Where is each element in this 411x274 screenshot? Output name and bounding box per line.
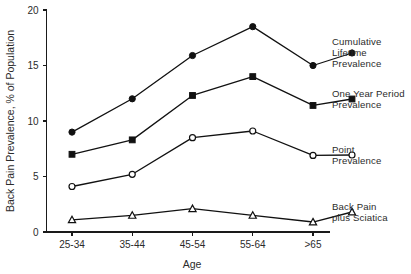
data-point-marker bbox=[310, 62, 316, 68]
x-tick-label: 25-34 bbox=[59, 239, 85, 250]
data-point-marker bbox=[250, 24, 256, 30]
y-tick-label: 10 bbox=[27, 116, 39, 127]
data-point-marker bbox=[310, 152, 316, 158]
series-4 bbox=[68, 205, 355, 225]
data-point-marker bbox=[129, 137, 135, 143]
y-tick-label: 15 bbox=[27, 60, 39, 71]
x-axis-title: Age bbox=[183, 258, 202, 270]
legend-label: Back Pain plus Sciatica bbox=[332, 201, 388, 223]
y-axis-ticks: 05101520 bbox=[27, 5, 46, 238]
data-point-marker bbox=[69, 151, 75, 157]
series-2 bbox=[69, 74, 355, 158]
x-tick-label: 55-64 bbox=[240, 239, 266, 250]
y-tick-label: 20 bbox=[27, 5, 39, 16]
data-point-marker bbox=[69, 183, 75, 189]
y-tick-label: 5 bbox=[33, 171, 39, 182]
series-line bbox=[72, 27, 313, 132]
x-tick-label: 35-44 bbox=[119, 239, 145, 250]
legend-label: One Year Period Prevalence bbox=[332, 88, 405, 110]
y-tick-label: 0 bbox=[33, 227, 39, 238]
data-point-marker bbox=[310, 103, 316, 109]
data-point-marker bbox=[189, 52, 195, 58]
series-3 bbox=[69, 128, 355, 190]
series-line bbox=[72, 77, 313, 155]
data-point-marker bbox=[250, 74, 256, 80]
data-point-marker bbox=[129, 96, 135, 102]
series-layer bbox=[68, 24, 355, 225]
data-point-marker bbox=[190, 135, 196, 141]
data-point-marker bbox=[129, 171, 135, 177]
x-tick-label: >65 bbox=[305, 239, 322, 250]
series-1 bbox=[69, 24, 355, 136]
data-point-marker bbox=[250, 128, 256, 134]
legend-label: Point Prevalence bbox=[332, 144, 382, 166]
y-axis-title: Back Pain Prevalence, % of Population bbox=[4, 30, 16, 212]
data-point-marker bbox=[69, 129, 75, 135]
legend-label: Cumulative Lifetime Prevalence bbox=[332, 36, 382, 70]
x-axis-ticks: 25-3435-4445-5455-64>65 bbox=[59, 232, 322, 250]
x-tick-label: 45-54 bbox=[180, 239, 206, 250]
line-chart: 05101520 25-3435-4445-5455-64>65 Back Pa… bbox=[0, 0, 411, 274]
axes bbox=[47, 10, 331, 232]
data-point-marker bbox=[190, 93, 196, 99]
